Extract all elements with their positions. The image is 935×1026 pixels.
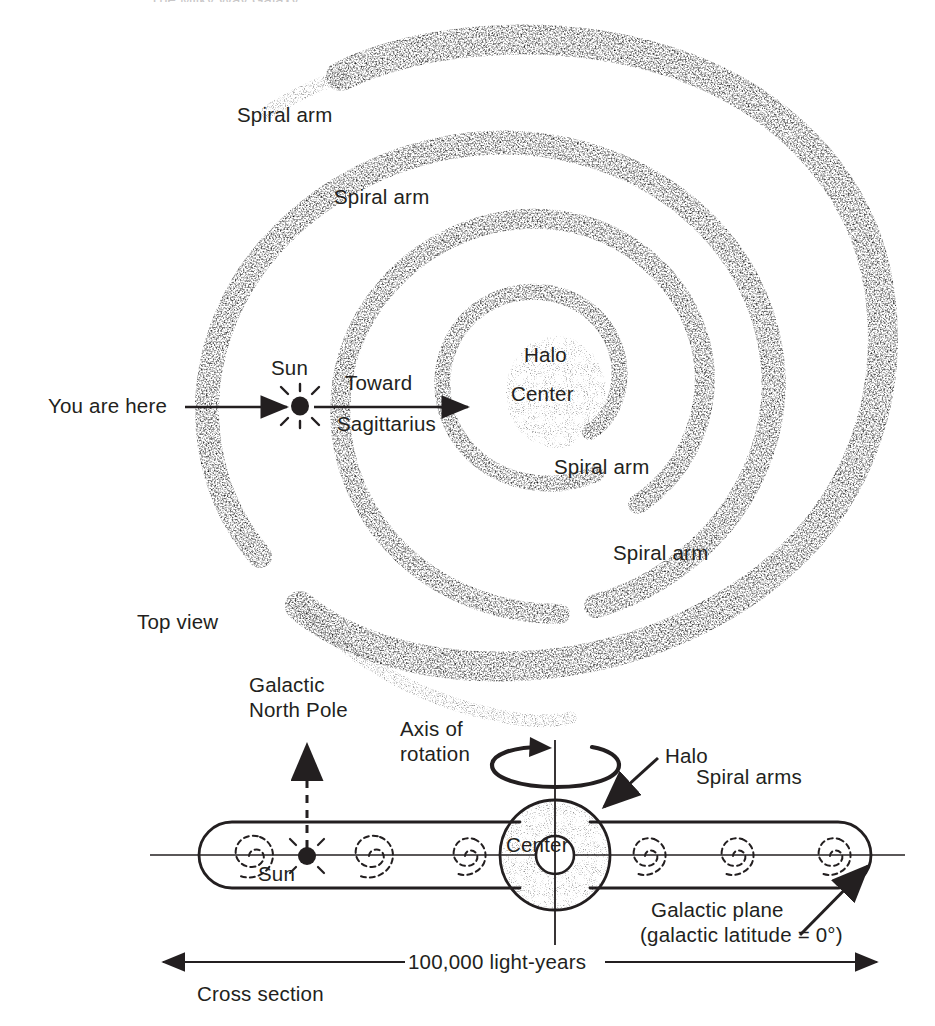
- disk-spiral-glyph: [356, 836, 393, 878]
- center-label-top-view: Center: [511, 382, 574, 406]
- cropped-caption-sliver: The Milky Way Galaxy: [150, 0, 299, 2]
- axis-of-rotation-label-line2: rotation: [400, 742, 470, 766]
- disk-spiral-glyph: [454, 838, 486, 875]
- disk-spiral-glyph: [722, 838, 754, 875]
- spiral-arm-label-2: Spiral arm: [334, 185, 429, 209]
- disk-spiral-glyph: [634, 838, 666, 875]
- disk-spiral-glyph: [819, 838, 851, 875]
- galactic-north-pole-label-line1: Galactic: [249, 673, 325, 697]
- spiral-arm-label-4: Spiral arm: [613, 541, 708, 565]
- galactic-plane-label-line1: Galactic plane: [651, 898, 784, 922]
- spiral-arm-label-1: Spiral arm: [237, 103, 332, 127]
- center-label-cross-section: Center: [506, 833, 569, 857]
- you-are-here-label: You are here: [48, 394, 167, 418]
- diagram-canvas: [0, 0, 935, 1026]
- spiral-arm-label-3: Spiral arm: [554, 455, 649, 479]
- sun-label-top-view: Sun: [271, 356, 308, 380]
- galactic-north-pole-label-line2: North Pole: [249, 698, 348, 722]
- halo-callout-arrow: [604, 758, 658, 807]
- galactic-plane-label-line2: (galactic latitude = 0°): [640, 923, 843, 947]
- sun-label-cross-section: Sun: [258, 862, 295, 886]
- toward-sagittarius-label-line1: Toward: [345, 371, 412, 395]
- spiral-arms-label-cross-section: Spiral arms: [696, 765, 802, 789]
- top-view-section-label: Top view: [137, 610, 218, 634]
- cross-section-section-label: Cross section: [197, 982, 324, 1006]
- halo-label-top-view: Halo: [524, 343, 567, 367]
- scale-bar-label: 100,000 light-years: [408, 950, 586, 974]
- axis-of-rotation-label-line1: Axis of: [400, 717, 463, 741]
- milky-way-diagram: The Milky Way Galaxy Spiral arm Spiral a…: [0, 0, 935, 1026]
- toward-sagittarius-label-line2: Sagittarius: [337, 412, 436, 436]
